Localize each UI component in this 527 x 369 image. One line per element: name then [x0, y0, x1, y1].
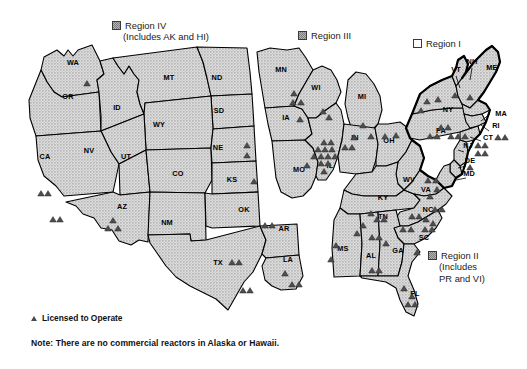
reactor-marker	[45, 191, 52, 196]
reactor-marker	[467, 165, 474, 170]
state-label-de: DE	[465, 156, 476, 165]
state-label-ca: CA	[40, 152, 51, 161]
state-label-mi: MI	[358, 92, 367, 101]
state-label-nc: NC	[423, 205, 434, 214]
state-label-nd: ND	[212, 73, 223, 82]
state-label-wi: WI	[311, 83, 320, 92]
region-name: Region II	[441, 250, 479, 261]
state-label-me: ME	[486, 63, 497, 72]
reactor-marker	[247, 288, 254, 293]
state-label-tx: TX	[213, 258, 223, 267]
state-label-vt: VT	[451, 65, 461, 74]
region-subtitle: (Includes AK and HI)	[123, 31, 209, 42]
region-subtitle: (Includes	[439, 261, 485, 272]
state-label-nm: NM	[161, 218, 173, 227]
triangle-marker-icon	[31, 316, 37, 321]
state-label-ga: GA	[392, 246, 404, 255]
nrc-region-map: WAORIDMTNDSDWYNVUTCONEKSCAAZNMOKTXARLAMN…	[0, 0, 527, 369]
state-label-ut: UT	[121, 152, 131, 161]
region-callout-region-iv: Region IV(Includes AK and HI)	[112, 20, 209, 43]
state-label-wy: WY	[153, 120, 165, 129]
state-label-ma: MA	[495, 109, 507, 118]
state-label-ky: KY	[378, 193, 389, 202]
reactor-marker	[482, 143, 489, 148]
state-label-md: MD	[463, 169, 475, 178]
state-label-co: CO	[172, 169, 183, 178]
state-label-az: AZ	[117, 202, 127, 211]
state-label-or: OR	[62, 92, 74, 101]
region-swatch-icon	[298, 31, 307, 40]
state-label-wa: WA	[67, 58, 80, 67]
region-subtitle: PR and VI)	[439, 273, 485, 284]
state-label-nv: NV	[84, 146, 95, 155]
state-label-nj: NJ	[463, 141, 473, 150]
state-label-la: LA	[283, 255, 294, 264]
state-label-mn: MN	[275, 65, 287, 74]
region-callout-region-ii: Region II(IncludesPR and VI)	[428, 250, 485, 284]
state-label-al: AL	[366, 251, 376, 260]
reactor-marker	[475, 151, 482, 156]
region-callout-region-iii: Region III	[298, 30, 351, 41]
state-label-ok: OK	[238, 205, 250, 214]
region-name: Region III	[311, 30, 351, 41]
state-label-sc: SC	[419, 233, 430, 242]
legend-licensed-to-operate: Licensed to Operate	[31, 313, 123, 323]
reactor-marker	[475, 143, 482, 148]
state-label-sd: SD	[214, 106, 225, 115]
state-label-ar: AR	[279, 224, 290, 233]
state-label-ct: CT	[483, 133, 493, 142]
state-label-id: ID	[113, 103, 121, 112]
reactor-marker	[495, 135, 502, 140]
reactor-marker	[482, 151, 489, 156]
state-label-ks: KS	[227, 175, 238, 184]
region-name: Region I	[426, 38, 461, 49]
state-label-mo: MO	[293, 165, 305, 174]
map-note: Note: There are no commercial reactors i…	[31, 338, 279, 348]
region-name: Region IV	[125, 20, 166, 31]
reactor-marker	[38, 191, 45, 196]
legend-label: Licensed to Operate	[42, 313, 123, 323]
region-swatch-icon	[112, 21, 121, 30]
state-label-nh: NH	[467, 57, 478, 66]
region-swatch-icon	[428, 251, 437, 260]
region-swatch-icon	[413, 39, 422, 48]
state-label-ny: NY	[443, 105, 454, 114]
state-label-wv: WV	[403, 175, 415, 184]
state-label-mt: MT	[164, 73, 175, 82]
reactor-marker	[57, 217, 64, 222]
reactor-marker	[502, 135, 509, 140]
reactor-marker	[50, 217, 57, 222]
state-label-ms: MS	[337, 244, 348, 253]
state-label-ia: IA	[282, 113, 290, 122]
state-label-va: VA	[421, 185, 432, 194]
region-callout-region-i: Region I	[413, 38, 461, 49]
state-label-ne: NE	[213, 143, 224, 152]
state-label-ri: RI	[492, 121, 500, 130]
